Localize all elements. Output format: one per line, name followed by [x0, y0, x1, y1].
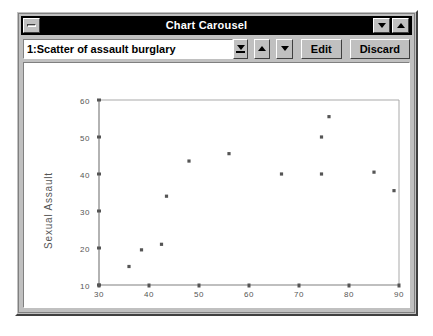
- y-tick-mark: [97, 99, 101, 102]
- previous-chart-button[interactable]: [254, 39, 270, 59]
- chart-client-area: 10203040506030405060708090BurglarySexual…: [23, 62, 410, 308]
- maximize-button[interactable]: [392, 18, 409, 33]
- y-axis-title: Sexual Assault: [43, 172, 54, 249]
- data-point: [187, 159, 190, 162]
- data-point: [227, 152, 230, 155]
- y-tick-label: 10: [80, 282, 90, 291]
- data-point: [140, 248, 143, 251]
- y-tick-label: 50: [80, 134, 90, 143]
- y-tick-mark: [97, 247, 101, 250]
- x-tick-mark: [248, 284, 251, 288]
- minimize-button[interactable]: [373, 18, 390, 33]
- data-point: [392, 189, 395, 192]
- data-point: [372, 171, 375, 174]
- system-menu-icon: [27, 24, 36, 27]
- y-tick-mark: [97, 210, 101, 213]
- x-tick-mark: [348, 284, 351, 288]
- x-tick-label: 90: [394, 290, 404, 299]
- y-tick-label: 40: [80, 171, 90, 180]
- chart-selector-dropdown-button[interactable]: [233, 39, 248, 59]
- x-tick-label: 30: [94, 290, 104, 299]
- y-tick-label: 20: [80, 245, 90, 254]
- y-tick-mark: [97, 136, 101, 139]
- x-tick-mark: [298, 284, 301, 288]
- x-tick-label: 40: [144, 290, 154, 299]
- triangle-up-icon: [258, 46, 266, 51]
- x-tick-label: 60: [244, 290, 254, 299]
- x-tick-mark: [398, 284, 401, 288]
- x-tick-mark: [198, 284, 201, 288]
- data-point: [320, 172, 323, 175]
- chevron-down-icon: [237, 45, 245, 50]
- title-bar[interactable]: Chart Carousel: [21, 16, 412, 35]
- x-tick-label: 70: [294, 290, 304, 299]
- window-title: Chart Carousel: [41, 16, 372, 35]
- chart-selector-combobox[interactable]: 1:Scatter of assault burglary: [23, 39, 248, 59]
- y-tick-label: 30: [80, 208, 90, 217]
- edit-button[interactable]: Edit: [301, 39, 342, 59]
- data-point: [327, 115, 330, 118]
- x-tick-mark: [98, 284, 101, 288]
- data-point: [320, 135, 323, 138]
- data-point: [127, 265, 130, 268]
- y-tick-label: 60: [80, 97, 90, 106]
- maximize-icon: [397, 23, 405, 28]
- minimize-icon: [378, 23, 386, 28]
- x-tick-label: 80: [344, 290, 354, 299]
- y-tick-mark: [97, 173, 101, 176]
- chart-toolbar: 1:Scatter of assault burglary Edit Disca…: [23, 38, 410, 59]
- x-tick-label: 50: [194, 290, 204, 299]
- system-menu-button[interactable]: [23, 18, 40, 33]
- data-point: [160, 243, 163, 246]
- next-chart-button[interactable]: [276, 39, 292, 59]
- data-point: [280, 172, 283, 175]
- data-point: [165, 195, 168, 198]
- scatter-plot: 10203040506030405060708090BurglarySexual…: [24, 63, 410, 308]
- triangle-down-icon: [281, 46, 289, 51]
- chart-selector-value[interactable]: 1:Scatter of assault burglary: [23, 39, 233, 59]
- discard-button[interactable]: Discard: [350, 39, 410, 59]
- chart-carousel-window: Chart Carousel 1:Scatter of assault burg…: [15, 10, 418, 316]
- dropdown-underline-icon: [236, 51, 245, 53]
- window-inner-frame: Chart Carousel 1:Scatter of assault burg…: [18, 13, 415, 313]
- window-buttons: [372, 18, 410, 33]
- x-tick-mark: [148, 284, 151, 288]
